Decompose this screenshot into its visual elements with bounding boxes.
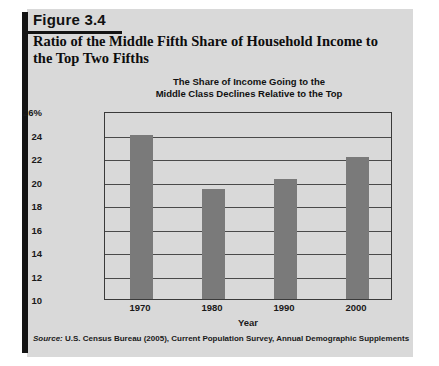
bar-series	[105, 113, 391, 299]
chart-subtitle: The Share of Income Going to the Middle …	[104, 76, 394, 100]
source-prefix: Source:	[33, 334, 63, 343]
bar-2000	[346, 157, 369, 299]
figure-page: Figure 3.4 Ratio of the Middle Fifth Sha…	[0, 0, 439, 366]
figure-number: Figure 3.4	[33, 11, 106, 28]
figure-title: Ratio of the Middle Fifth Share of House…	[33, 33, 393, 67]
plot-area	[104, 112, 392, 300]
y-axis-tick-label: 18	[0, 201, 42, 212]
source-note: Source: U.S. Census Bureau (2005), Curre…	[33, 334, 408, 343]
y-axis-tick-label: 20	[0, 177, 42, 188]
y-axis-tick-label: 12	[0, 271, 42, 282]
source-text: U.S. Census Bureau (2005), Current Popul…	[63, 334, 409, 343]
bar-1990	[274, 179, 297, 299]
chart-subtitle-line2: Middle Class Declines Relative to the To…	[104, 88, 394, 100]
x-axis-label: Year	[104, 317, 392, 328]
y-axis-tick-label: 24	[0, 130, 42, 141]
x-axis-tick-label: 1990	[254, 302, 314, 313]
y-axis-tick-label: 22	[0, 154, 42, 165]
y-axis-tick-label: 10	[0, 295, 42, 306]
y-axis-tick-label: 26%	[0, 107, 42, 118]
y-axis-tick-label: 14	[0, 248, 42, 259]
bar-1980	[202, 189, 225, 299]
x-axis-tick-label: 1980	[182, 302, 242, 313]
bar-1970	[130, 135, 153, 300]
x-axis-tick-label: 1970	[110, 302, 170, 313]
x-axis-tick-label: 2000	[326, 302, 386, 313]
y-axis-tick-label: 16	[0, 224, 42, 235]
chart-subtitle-line1: The Share of Income Going to the	[104, 76, 394, 88]
